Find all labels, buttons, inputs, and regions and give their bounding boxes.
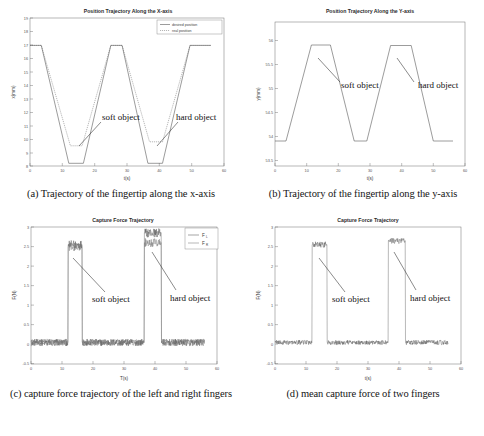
svg-text:10: 10 (304, 367, 308, 371)
panel-a-legend-label-1: real position (172, 29, 191, 33)
svg-text:0: 0 (30, 367, 32, 371)
svg-text:55.5: 55.5 (266, 63, 273, 67)
svg-text:2: 2 (27, 265, 29, 269)
svg-text:10: 10 (60, 169, 64, 173)
panel-d-x-ticks: 0 10 20 30 40 50 60 (274, 361, 463, 371)
svg-text:3: 3 (271, 226, 273, 230)
panel-c-annotation-hard-label: hard object (170, 293, 211, 303)
panel-c-annotation-soft-label: soft object (92, 294, 130, 304)
panel-a-annotation-hard-label: hard object (176, 112, 217, 122)
svg-text:30: 30 (366, 367, 370, 371)
svg-text:30: 30 (368, 169, 372, 173)
svg-text:20: 20 (93, 169, 97, 173)
figure-row-top: Position Trajectory Along the X-axis 19 … (0, 0, 484, 200)
panel-c-legend-label-1: F (202, 241, 205, 246)
panel-c-y-ticks: 3 2.5 2 1.5 1 0.5 0 -0.5 (22, 226, 34, 367)
svg-text:18: 18 (24, 30, 28, 34)
panel-a-x-ticks: 0 10 20 30 40 50 60 (29, 163, 226, 173)
svg-text:2.5: 2.5 (24, 245, 29, 249)
svg-text:40: 40 (397, 367, 401, 371)
panel-b-annotation-hard: hard object (397, 58, 459, 90)
svg-text:54.5: 54.5 (266, 111, 273, 115)
panel-c-legend[interactable]: F L F R (185, 228, 218, 249)
figure-panel-grid: Position Trajectory Along the X-axis 19 … (0, 0, 484, 436)
svg-text:3: 3 (27, 226, 29, 230)
panel-b-x-ticks: 0 10 20 30 40 50 60 (274, 163, 467, 173)
panel-c: Capture Force Trajectory 3 2.5 2 1.5 1 0… (0, 200, 242, 400)
panel-b-caption: (b) Trajectory of the fingertip along th… (242, 186, 484, 200)
svg-text:40: 40 (153, 367, 157, 371)
svg-text:8: 8 (26, 165, 28, 169)
svg-text:50: 50 (428, 367, 432, 371)
panel-b: Position Trajectory Along the Y-axis 56 … (242, 0, 484, 200)
panel-c-series-FL (31, 229, 204, 346)
panel-c-title: Capture Force Trajectory (92, 217, 154, 223)
svg-text:9: 9 (26, 152, 28, 156)
svg-text:60: 60 (222, 169, 226, 173)
svg-text:19: 19 (24, 17, 28, 21)
panel-a-ylabel: x(mm) (11, 85, 16, 98)
svg-text:-0.5: -0.5 (22, 362, 29, 366)
svg-text:17: 17 (24, 44, 28, 48)
panel-a-series-desired (30, 45, 211, 163)
svg-text:10: 10 (60, 367, 64, 371)
svg-text:14: 14 (24, 84, 28, 88)
panel-c-annotation-hard: hard object (152, 252, 211, 303)
svg-text:1.5: 1.5 (24, 284, 29, 288)
svg-text:10: 10 (24, 138, 28, 142)
svg-text:-0.5: -0.5 (266, 362, 273, 366)
svg-text:0: 0 (274, 367, 276, 371)
svg-text:40: 40 (400, 169, 404, 173)
svg-text:55: 55 (269, 87, 273, 91)
svg-text:12: 12 (24, 111, 28, 115)
svg-text:20: 20 (91, 367, 95, 371)
svg-text:30: 30 (122, 367, 126, 371)
svg-text:16: 16 (24, 57, 28, 61)
svg-text:50: 50 (190, 169, 194, 173)
svg-text:0: 0 (274, 169, 276, 173)
panel-d-title: Capture Force Trajectory (337, 217, 399, 223)
panel-b-axes-frame (275, 22, 465, 166)
panel-d: Capture Force Trajectory 3 2.5 2 1.5 1 0… (242, 200, 484, 400)
panel-c-ylabel: F(N) (12, 290, 17, 300)
svg-text:0: 0 (27, 343, 29, 347)
panel-d-annotation-soft-label: soft object (332, 294, 370, 304)
svg-text:10: 10 (305, 169, 309, 173)
panel-d-y-ticks: 3 2.5 2 1.5 1 0.5 0 -0.5 (266, 226, 278, 367)
panel-a-caption: (a) Trajectory of the fingertip along th… (0, 186, 242, 200)
panel-a-legend[interactable]: desired position real position (157, 20, 222, 34)
svg-text:30: 30 (125, 169, 129, 173)
panel-a-y-ticks: 19 18 17 16 15 14 13 12 11 10 9 8 (24, 17, 33, 169)
svg-text:0.5: 0.5 (24, 323, 29, 327)
svg-text:54: 54 (269, 135, 273, 139)
svg-text:50: 50 (431, 169, 435, 173)
svg-text:0.5: 0.5 (268, 323, 273, 327)
svg-text:20: 20 (335, 367, 339, 371)
svg-text:0: 0 (271, 343, 273, 347)
panel-b-series-y (275, 45, 453, 141)
panel-b-title: Position Trajectory Along the Y-axis (326, 8, 414, 14)
panel-d-xlabel: t(s) (365, 376, 372, 381)
svg-text:60: 60 (459, 367, 463, 371)
svg-text:0: 0 (29, 169, 31, 173)
panel-c-annotation-soft: soft object (73, 258, 130, 304)
svg-text:13: 13 (24, 98, 28, 102)
svg-text:15: 15 (24, 71, 28, 75)
svg-text:40: 40 (157, 169, 161, 173)
svg-text:53.5: 53.5 (266, 159, 273, 163)
panel-d-series-mean (275, 238, 448, 345)
panel-a-annotation-hard: hard object (157, 112, 217, 146)
panel-d-ylabel: F(N) (256, 290, 261, 300)
svg-text:1: 1 (27, 304, 29, 308)
panel-b-annotation-soft: soft object (318, 58, 379, 90)
panel-b-ylabel: y(mm) (256, 87, 261, 100)
panel-b-plot: Position Trajectory Along the Y-axis 56 … (242, 0, 484, 186)
panel-c-plot: Capture Force Trajectory 3 2.5 2 1.5 1 0… (0, 200, 242, 386)
svg-text:60: 60 (215, 367, 219, 371)
panel-a-annotation-soft: soft object (79, 112, 140, 146)
svg-text:2.5: 2.5 (268, 245, 273, 249)
panel-a-annotation-soft-label: soft object (102, 112, 140, 122)
panel-a: Position Trajectory Along the X-axis 19 … (0, 0, 242, 200)
panel-b-annotation-hard-label: hard object (418, 80, 459, 90)
panel-d-annotation-hard-label: hard object (410, 293, 451, 303)
